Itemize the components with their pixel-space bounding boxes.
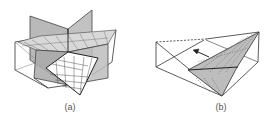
panel-a-drawing bbox=[15, 10, 116, 95]
shaded-diagonal-plane bbox=[188, 32, 259, 96]
back-dashed-edge bbox=[156, 39, 206, 42]
right-vertical-edge bbox=[258, 32, 259, 62]
panel-b-drawing bbox=[156, 32, 259, 96]
figure-svg bbox=[0, 0, 272, 125]
caption-b: (b) bbox=[216, 103, 227, 112]
figure: (a) (b) bbox=[0, 0, 272, 125]
caption-a: (a) bbox=[65, 103, 76, 112]
arrow-head-icon bbox=[193, 49, 199, 54]
